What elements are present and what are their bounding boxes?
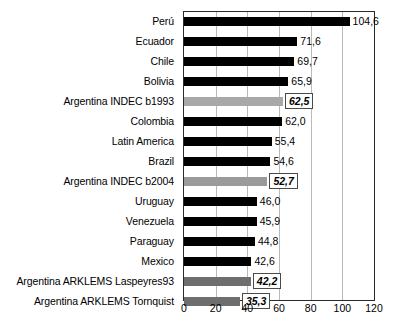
bar (184, 217, 257, 226)
plot-area (183, 11, 375, 301)
category-label: Brazil (0, 151, 178, 171)
bar (184, 177, 267, 186)
bar-row (184, 32, 374, 52)
category-label: Perú (0, 11, 178, 31)
category-label: Argentina ARKLEMS Laspeyres93 (0, 271, 178, 291)
bar-row (184, 112, 374, 132)
category-label: Paraguay (0, 231, 178, 251)
category-label: Argentina ARKLEMS Tornquist (0, 291, 178, 311)
x-tick-label: 20 (210, 302, 222, 314)
category-label: Bolivia (0, 71, 178, 91)
category-label: Colombia (0, 111, 178, 131)
bar (184, 277, 251, 286)
x-tick-label: 60 (273, 302, 285, 314)
x-tick-label: 0 (181, 302, 187, 314)
category-axis-labels: PerúEcuadorChileBoliviaArgentina INDEC b… (0, 11, 178, 311)
bar (184, 57, 294, 66)
category-label: Chile (0, 51, 178, 71)
bar-row (184, 192, 374, 212)
bar-row (184, 212, 374, 232)
bar (184, 237, 255, 246)
category-label: Mexico (0, 251, 178, 271)
bar (184, 77, 288, 86)
category-label: Latin America (0, 131, 178, 151)
bar-row (184, 232, 374, 252)
bar (184, 137, 272, 146)
x-tick-label: 40 (241, 302, 253, 314)
bar (184, 197, 257, 206)
x-tick-label: 80 (305, 302, 317, 314)
bar-row (184, 12, 374, 32)
bar-row (184, 132, 374, 152)
bar-row (184, 152, 374, 172)
bar (184, 157, 270, 166)
bar-row (184, 172, 374, 192)
category-label: Uruguay (0, 191, 178, 211)
bar-row (184, 252, 374, 272)
bar-chart: PerúEcuadorChileBoliviaArgentina INDEC b… (0, 0, 396, 336)
bar-row (184, 272, 374, 292)
bar (184, 97, 283, 106)
x-tick-label: 120 (365, 302, 383, 314)
bar (184, 37, 297, 46)
bar-row (184, 92, 374, 112)
category-label: Venezuela (0, 211, 178, 231)
category-label: Ecuador (0, 31, 178, 51)
bar (184, 17, 350, 26)
category-label: Argentina INDEC b1993 (0, 91, 178, 111)
bar (184, 257, 251, 266)
bar (184, 117, 282, 126)
bar-row (184, 52, 374, 72)
x-tick-label: 100 (334, 302, 352, 314)
x-axis-tick-labels: 020406080100120 (183, 302, 375, 322)
category-label: Argentina INDEC b2004 (0, 171, 178, 191)
bars-container (184, 12, 374, 300)
bar-row (184, 72, 374, 92)
